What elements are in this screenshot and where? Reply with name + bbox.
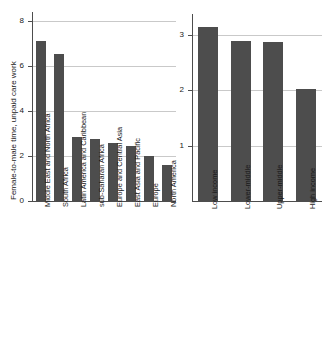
y-tick-mark <box>188 146 192 147</box>
y-tick-mark <box>28 156 32 157</box>
y-axis-label-left: Female-to-male time, unpaid care work <box>9 61 18 200</box>
x-category-label: Europe and Central Asia <box>116 127 124 207</box>
figure-root: Female-to-male time, unpaid care work 02… <box>0 0 327 343</box>
gridline <box>32 21 176 22</box>
y-axis-line-left <box>32 12 33 201</box>
y-tick-label: 3 <box>166 31 184 39</box>
x-category-label: Lower-middle <box>244 165 252 209</box>
x-category-label: sub-Saharan Africa <box>98 144 106 207</box>
x-category-label: East Asia and Pacific <box>134 138 142 207</box>
y-tick-mark <box>28 66 32 67</box>
y-tick-label: 1 <box>166 142 184 150</box>
x-category-label: Middle East and North Africa <box>44 113 52 207</box>
x-category-label: High income <box>309 168 317 209</box>
x-category-label: Low income <box>211 170 219 209</box>
y-tick-mark <box>28 201 32 202</box>
y-tick-label: 6 <box>6 62 24 70</box>
y-tick-label: 8 <box>6 17 24 25</box>
chart-panel-left: Female-to-male time, unpaid care work 02… <box>0 0 178 343</box>
y-tick-mark <box>28 111 32 112</box>
y-axis-line-right <box>192 14 193 201</box>
y-tick-mark <box>188 35 192 36</box>
y-tick-label: 4 <box>6 107 24 115</box>
chart-panel-right: 123 Low incomeLower-middleUpper-middleHi… <box>178 0 327 343</box>
x-category-label: Latin America and Caribbean <box>80 112 88 207</box>
y-tick-label: 2 <box>166 86 184 94</box>
x-category-label: South Africa <box>62 167 70 207</box>
x-category-label: Europe <box>152 183 160 207</box>
y-tick-mark <box>28 21 32 22</box>
x-category-label: Upper-middle <box>276 165 284 209</box>
x-category-label: North America <box>170 160 178 207</box>
y-tick-label: 0 <box>6 197 24 205</box>
y-tick-label: 2 <box>6 152 24 160</box>
y-tick-mark <box>188 90 192 91</box>
